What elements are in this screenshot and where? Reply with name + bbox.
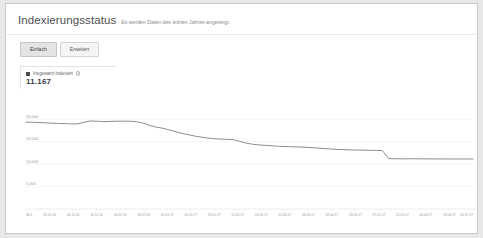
x-axis-tick-label: 18.12.16 [137,213,150,217]
indexing-line-chart[interactable]: 20.00015.00010.0005.00008.1.23.10.1606.1… [16,93,478,225]
x-axis-tick-label: 23.04.17 [349,213,362,217]
x-axis-tick-label: 26.02.17 [255,213,268,217]
x-axis-tick-label: 04.12.16 [114,213,127,217]
tab-einfach[interactable]: Einfach [20,42,57,57]
x-axis-tick-label: 18.06.17 [443,213,456,217]
legend-row: Insgesamt indexiert i [26,71,110,76]
x-axis-tick-label: 06.11.16 [67,213,80,217]
page-subtitle: Es werden Daten des letzten Jahres angez… [121,19,230,25]
x-axis-tick-label: 04.06.17 [420,213,433,217]
x-axis-tick-label: 02.07.17 [460,213,473,217]
tab-erweitert[interactable]: Erweitert [60,42,100,57]
legend-color-swatch [26,72,30,76]
indexing-status-panel: Indexierungsstatus Es werden Daten des l… [5,3,478,234]
page-title: Indexierungsstatus [18,14,116,26]
x-axis-tick-label: 08.1. [26,213,33,217]
x-axis-tick-label: 20.11.16 [90,213,103,217]
x-axis-tick-label: 01.01.17 [161,213,174,217]
x-axis-tick-label: 23.10.16 [43,213,56,217]
legend-series-label: Insgesamt indexiert [33,71,73,76]
tab-bar: Einfach Erweitert [6,35,477,57]
legend-total-value: 11.167 [26,77,110,86]
panel-header: Indexierungsstatus Es werden Daten des l… [6,4,477,35]
x-axis-tick-label: 12.02.17 [231,213,244,217]
y-axis-tick-label: 5.000 [26,181,37,186]
info-icon[interactable]: i [76,71,81,76]
x-axis-tick-label: 26.03.17 [302,213,315,217]
x-axis-tick-label: 07.05.17 [372,213,385,217]
y-axis-tick-label: 10.000 [26,159,39,164]
y-axis-tick-label: 20.000 [26,114,39,119]
x-axis-tick-label: 09.04.17 [325,213,338,217]
chart-area: 20.00015.00010.0005.00008.1.23.10.1606.1… [16,93,471,225]
x-axis-tick-label: 29.01.17 [208,213,221,217]
x-axis-tick-label: 15.01.17 [184,213,197,217]
chart-legend: Insgesamt indexiert i 11.167 [20,66,116,89]
y-axis-tick-label: 15.000 [26,136,39,141]
x-axis-tick-label: 21.05.17 [396,213,409,217]
series-line-insgesamt-indexiert [26,121,473,159]
x-axis-tick-label: 12.03.17 [278,213,291,217]
